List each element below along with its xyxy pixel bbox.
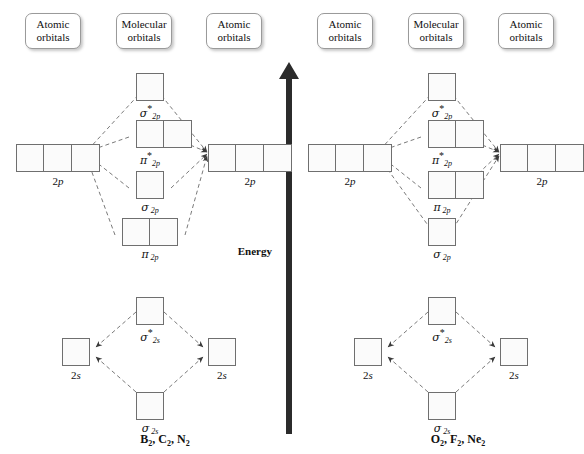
- label-sigma-2p-star-2: σ*2p: [432, 103, 453, 121]
- atomic-orbital-2s-right: [208, 338, 236, 366]
- atomic-orbital-2p-left: [16, 144, 100, 172]
- orbital-cell: [428, 171, 456, 199]
- mo-pi-2p-star-2: [428, 120, 484, 148]
- mo-diagram-figure: Energy Atomic orbitals Molecular orbital…: [0, 0, 584, 454]
- orbital-cell: [354, 338, 382, 366]
- molecules-caption-left: B2, C2, N2: [140, 432, 189, 448]
- header-line-2: orbitals: [420, 31, 453, 44]
- header-line-2: orbitals: [218, 31, 251, 44]
- header-line-1: Atomic: [37, 18, 70, 31]
- label-pi-2p: π 2p: [141, 248, 158, 262]
- orbital-cell: [136, 73, 164, 101]
- atomic-orbital-2p-right: [208, 144, 292, 172]
- mo-sigma-2s-2: [428, 392, 456, 420]
- orbital-cell: [150, 218, 178, 246]
- label-2p-left-2: 2p: [345, 175, 356, 187]
- label-2s-left: 2s: [71, 369, 81, 381]
- orbital-cell: [500, 338, 528, 366]
- atomic-orbital-2p-right-2: [500, 144, 584, 172]
- orbital-cell: [456, 171, 484, 199]
- orbital-cell: [336, 144, 364, 172]
- label-2p-right: 2p: [245, 175, 256, 187]
- orbital-cell: [428, 73, 456, 101]
- header-line-1: Atomic: [218, 18, 251, 31]
- mo-sigma-2p-2: [428, 218, 456, 246]
- orbital-cell: [264, 144, 292, 172]
- header-line-2: orbitals: [128, 31, 161, 44]
- header-atomic-orbitals-right: Atomic orbitals: [206, 13, 262, 49]
- mo-sigma-2s-star: [136, 297, 164, 325]
- mo-pi-2p: [122, 218, 178, 246]
- mo-pi-2p-star: [136, 120, 192, 148]
- header-line-1: Molecular: [413, 18, 458, 31]
- label-sigma-2s-star: σ*2s: [140, 327, 160, 345]
- header-atomic-orbitals-left-2: Atomic orbitals: [317, 13, 373, 49]
- orbital-cell: [428, 392, 456, 420]
- mo-sigma-2p-star: [136, 73, 164, 101]
- header-molecular-orbitals-right: Molecular orbitals: [408, 13, 464, 49]
- orbital-cell: [136, 120, 164, 148]
- orbital-cell: [136, 392, 164, 420]
- label-pi-2p-star-2: π*2p: [432, 150, 452, 168]
- energy-axis-arrow: [278, 62, 300, 434]
- atomic-orbital-2p-left-2: [308, 144, 392, 172]
- orbital-cell: [236, 144, 264, 172]
- orbital-cell: [308, 144, 336, 172]
- header-line-1: Atomic: [510, 18, 543, 31]
- orbital-cell: [428, 120, 456, 148]
- orbital-cell: [208, 338, 236, 366]
- orbital-cell: [72, 144, 100, 172]
- orbital-cell: [44, 144, 72, 172]
- mo-pi-2p-2: [428, 171, 484, 199]
- label-pi-2p-star: π*2p: [140, 150, 160, 168]
- header-molecular-orbitals-left: Molecular orbitals: [116, 13, 172, 49]
- orbital-cell: [16, 144, 44, 172]
- orbital-cell: [62, 338, 90, 366]
- label-sigma-2p: σ 2p: [141, 201, 159, 215]
- energy-axis-label: Energy: [238, 245, 272, 257]
- mo-sigma-2p: [136, 171, 164, 199]
- orbital-cell: [456, 120, 484, 148]
- label-sigma-2s-star-2: σ*2s: [432, 327, 452, 345]
- header-line-2: orbitals: [37, 31, 70, 44]
- orbital-cell: [428, 297, 456, 325]
- mo-sigma-2p-star-2: [428, 73, 456, 101]
- label-sigma-2p-star: σ*2p: [140, 103, 161, 121]
- orbital-cell: [500, 144, 528, 172]
- orbital-cell: [556, 144, 584, 172]
- header-line-1: Atomic: [329, 18, 362, 31]
- header-line-2: orbitals: [510, 31, 543, 44]
- label-2s-right-2: 2s: [509, 369, 519, 381]
- atomic-orbital-2s-left: [62, 338, 90, 366]
- atomic-orbital-2s-right-2: [500, 338, 528, 366]
- header-line-1: Molecular: [121, 18, 166, 31]
- header-atomic-orbitals-left: Atomic orbitals: [25, 13, 81, 49]
- orbital-cell: [208, 144, 236, 172]
- label-2p-right-2: 2p: [537, 175, 548, 187]
- molecules-caption-right: O2, F2, Ne2: [431, 432, 486, 448]
- label-pi-2p-2: π 2p: [433, 201, 450, 215]
- atomic-orbital-2s-left-2: [354, 338, 382, 366]
- orbital-cell: [136, 297, 164, 325]
- orbital-cell: [136, 171, 164, 199]
- label-2p-left: 2p: [53, 175, 64, 187]
- orbital-cell: [364, 144, 392, 172]
- orbital-cell: [122, 218, 150, 246]
- mo-sigma-2s-star-2: [428, 297, 456, 325]
- header-line-2: orbitals: [329, 31, 362, 44]
- orbital-cell: [164, 120, 192, 148]
- label-2s-right: 2s: [217, 369, 227, 381]
- header-atomic-orbitals-right-2: Atomic orbitals: [498, 13, 554, 49]
- label-sigma-2p-2: σ 2p: [433, 248, 451, 262]
- mo-sigma-2s: [136, 392, 164, 420]
- label-2s-left-2: 2s: [363, 369, 373, 381]
- orbital-cell: [428, 218, 456, 246]
- orbital-cell: [528, 144, 556, 172]
